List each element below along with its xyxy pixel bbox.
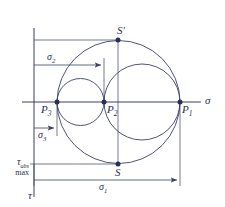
sigma-axis-label: σ (205, 95, 210, 106)
dimension-label-sigma3: σ3 (38, 130, 46, 143)
dimension-label-sigma1: σ1 (99, 182, 107, 195)
tau-abs-max-label: τabsmax (2, 157, 29, 177)
point-marker-S-prime (116, 38, 121, 43)
tau-axis-label: τ (28, 190, 32, 201)
mohr-circle-figure: P3 P2 P1 S′ S σ τ σ2 σ3 σ1 τabsmax (0, 0, 225, 207)
point-label-S: S (115, 167, 121, 178)
point-label-P1: P1 (182, 104, 192, 118)
point-marker-P2 (102, 100, 107, 105)
point-label-P2: P2 (107, 104, 117, 118)
dimension-label-sigma2: σ2 (47, 52, 55, 65)
point-label-P3: P3 (41, 104, 51, 118)
point-marker-P3 (55, 100, 60, 105)
point-label-S-prime: S′ (117, 25, 125, 36)
dimension-arrows (34, 65, 177, 180)
